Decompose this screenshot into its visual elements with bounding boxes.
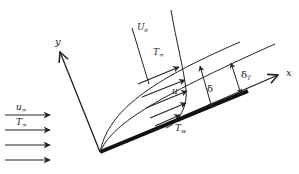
velocity-bl-thickness-label: δ xyxy=(207,83,213,94)
velocity-bl-edge xyxy=(100,42,240,152)
wall-plate xyxy=(100,91,248,152)
edge-velocity-line xyxy=(132,28,149,84)
thermal-bl-thickness-arrow xyxy=(231,63,241,94)
thermal-bl-thickness-label: δT xyxy=(241,69,252,81)
edge-velocity-label: Ue xyxy=(137,22,149,33)
y-axis xyxy=(60,52,100,152)
freestream-arrows xyxy=(5,115,50,160)
freestream-temp-label: T∞ xyxy=(16,117,27,128)
free-temp-profile-label: T∞ xyxy=(153,47,164,58)
thermal-bl-edge xyxy=(100,44,275,152)
local-velocity-label: u xyxy=(172,86,178,96)
wall-temp-label: Tw xyxy=(175,123,187,134)
boundary-layer-diagram: u∞ T∞ y x Ue T∞ u δ δT Tw xyxy=(0,0,299,174)
freestream-velocity-label: u∞ xyxy=(16,102,27,113)
x-axis-label: x xyxy=(286,67,292,78)
y-axis-label: y xyxy=(54,36,61,47)
